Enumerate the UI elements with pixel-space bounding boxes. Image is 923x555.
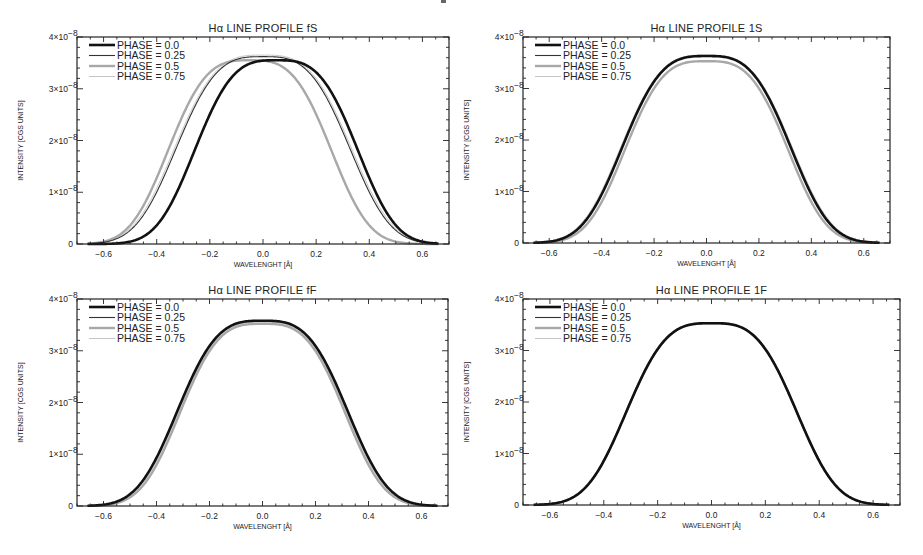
series-group [534,323,889,505]
y-tick-label: 4×10 [495,294,514,304]
x-tick-label: −0.4 [595,510,612,520]
y-tick-label: 3×10 [495,346,514,356]
x-tick-label: −0.6 [542,510,559,520]
y-tick-exponent: −8 [514,393,524,403]
x-tick-label: −0.2 [649,510,666,520]
y-axis-label: INTENSITY [CGS UNITS] [463,362,471,442]
x-tick-label: 0.4 [813,510,825,520]
chart-svg: Hα LINE PROFILE 1F−0.6−0.4−0.20.00.20.40… [0,0,923,555]
y-tick-label: 1×10 [495,449,514,459]
series-line [534,323,889,505]
y-tick-exponent: −8 [514,342,524,352]
y-tick-label: 2×10 [495,397,514,407]
series-line [534,323,889,505]
x-tick-label: 0.6 [867,510,879,520]
series-line [534,323,889,505]
y-tick-label: 0 [514,500,519,510]
x-tick-label: 0.2 [759,510,771,520]
legend: PHASE = 0.0PHASE = 0.25PHASE = 0.5PHASE … [535,301,631,345]
x-axis-label: WAVELENGHT [Å] [682,521,741,530]
y-tick-exponent: −8 [514,290,524,300]
x-tick-label: 0.0 [706,510,718,520]
y-tick-exponent: −8 [514,445,524,455]
legend-label: PHASE = 0.75 [563,332,631,344]
series-line [534,323,889,505]
chart-title: Hα LINE PROFILE 1F [656,284,768,296]
chart-panel-1F: Hα LINE PROFILE 1F−0.6−0.4−0.20.00.20.40… [0,0,923,555]
